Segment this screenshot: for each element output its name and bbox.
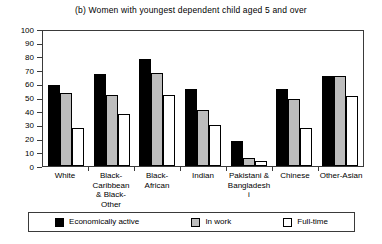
chart-legend: Economically activeIn workFull-time xyxy=(28,212,355,232)
bar-group xyxy=(43,31,89,166)
bar xyxy=(185,89,197,166)
y-axis-tick-label: 10 xyxy=(4,148,34,159)
y-axis-tick-label: 30 xyxy=(4,120,34,131)
x-axis-label: Indian xyxy=(180,171,226,207)
y-axis-tick-label: 100 xyxy=(4,25,34,36)
y-axis-tick-label: 60 xyxy=(4,79,34,90)
x-axis-label: Pakistani & Bangladeshi xyxy=(226,171,272,207)
bar xyxy=(94,74,106,166)
bar-group xyxy=(272,31,318,166)
bar xyxy=(163,95,175,166)
y-axis-tick-label: 40 xyxy=(4,107,34,118)
bar xyxy=(151,73,163,166)
bar xyxy=(346,96,358,166)
bar xyxy=(72,128,84,166)
bar xyxy=(243,158,255,166)
bar-group xyxy=(89,31,135,166)
legend-item: Full-time xyxy=(283,217,328,227)
bar xyxy=(288,99,300,166)
bar xyxy=(48,85,60,166)
bar xyxy=(118,114,130,166)
legend-swatch-icon xyxy=(191,218,200,227)
y-axis-tick-label: 0 xyxy=(4,162,34,173)
legend-swatch-icon xyxy=(55,218,64,227)
bar-group xyxy=(226,31,272,166)
legend-label: Economically active xyxy=(69,217,139,227)
bar xyxy=(322,76,334,166)
x-axis-label: Other-Asian xyxy=(318,171,364,207)
bar xyxy=(231,141,243,166)
bar xyxy=(106,95,118,166)
y-axis-tick-label: 80 xyxy=(4,52,34,63)
legend-label: Full-time xyxy=(297,217,328,227)
y-axis-tick-label: 50 xyxy=(4,93,34,104)
x-axis-label: Black-African xyxy=(134,171,180,207)
y-axis-tick-label: 70 xyxy=(4,66,34,77)
bar xyxy=(60,93,72,166)
x-axis-label: Black-Caribbean & Black-Other xyxy=(88,171,134,207)
bars-layer xyxy=(43,31,363,166)
bar-chart-figure: (b) Women with youngest dependent child … xyxy=(0,0,382,244)
plot-area xyxy=(42,30,364,167)
legend-swatch-icon xyxy=(283,218,292,227)
bar xyxy=(139,59,151,166)
bar-group xyxy=(180,31,226,166)
bar xyxy=(255,161,267,166)
x-axis-labels: WhiteBlack-Caribbean & Black-OtherBlack-… xyxy=(42,171,364,207)
x-axis-label: Chinese xyxy=(272,171,318,207)
legend-item: In work xyxy=(191,217,231,227)
bar xyxy=(209,125,221,166)
bar-group xyxy=(317,31,363,166)
chart-title: (b) Women with youngest dependent child … xyxy=(0,5,382,16)
bar xyxy=(276,89,288,166)
bar xyxy=(334,76,346,166)
bar xyxy=(300,128,312,166)
x-axis-label: White xyxy=(42,171,88,207)
bar xyxy=(197,110,209,166)
legend-item: Economically active xyxy=(55,217,139,227)
y-axis-tick-label: 20 xyxy=(4,134,34,145)
y-axis: 0102030405060708090100 xyxy=(0,30,42,167)
bar-group xyxy=(134,31,180,166)
y-axis-tick-label: 90 xyxy=(4,38,34,49)
legend-label: In work xyxy=(205,217,231,227)
